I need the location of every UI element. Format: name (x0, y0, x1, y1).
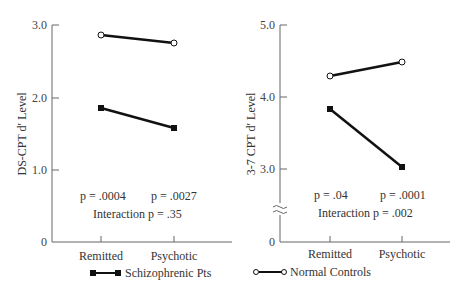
legend-square-marker-icon (90, 270, 96, 276)
legend-nc-label: Normal Controls (290, 265, 371, 279)
left-cat-remitted: Remitted (79, 249, 123, 263)
legend-sz-label: Schizophrenic Pts (125, 266, 212, 280)
left-p-remitted: p = .0004 (80, 189, 126, 203)
right-tick-5: 5.0 (260, 18, 275, 32)
right-tick-4: 4.0 (260, 90, 275, 104)
left-y-label: DS-CPT d′ Level (15, 92, 29, 176)
right-panel: 5.0 4.0 3.0 0 3-7 CPT d′ Level p = .04 p… (244, 18, 450, 261)
right-sz-remitted-point (327, 106, 333, 112)
left-p-psychotic: p = .0027 (151, 189, 197, 203)
figure: 3.0 2.0 1.0 0 DS-CPT d′ Level p = .0004 … (0, 0, 464, 298)
right-tick-3: 3.0 (260, 162, 275, 176)
right-y-label: 3-7 CPT d′ Level (244, 92, 258, 175)
right-cat-psychotic: Psychotic (379, 247, 426, 261)
right-interaction: Interaction p = .002 (318, 206, 413, 220)
left-nc-psychotic-point (171, 40, 177, 46)
right-p-remitted: p = .04 (314, 188, 348, 202)
left-sz-psychotic-point (171, 125, 177, 131)
left-interaction: Interaction p = .35 (93, 207, 182, 221)
left-tick-1: 1.0 (32, 163, 47, 177)
right-nc-remitted-point (327, 73, 333, 79)
right-tick-0: 0 (269, 235, 275, 249)
right-sz-psychotic-point (399, 164, 405, 170)
left-nc-remitted-point (98, 32, 104, 38)
right-nc-psychotic-point (399, 59, 405, 65)
right-cat-remitted: Remitted (308, 247, 352, 261)
left-tick-0: 0 (41, 235, 47, 249)
legend: Schizophrenic Pts Normal Controls (90, 265, 371, 280)
left-tick-3: 3.0 (32, 18, 47, 32)
left-tick-2: 2.0 (32, 91, 47, 105)
left-cat-psychotic: Psychotic (151, 249, 198, 263)
left-sz-remitted-point (98, 105, 104, 111)
legend-circle-marker-icon (254, 270, 259, 275)
right-p-psychotic: p = .0001 (380, 188, 426, 202)
left-panel: 3.0 2.0 1.0 0 DS-CPT d′ Level p = .0004 … (15, 18, 232, 263)
